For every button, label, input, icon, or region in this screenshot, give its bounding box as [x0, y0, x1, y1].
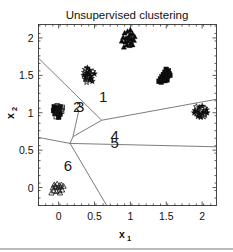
figure-container: Unsupervised clustering 00.511.5200.511.…	[0, 0, 233, 252]
x-axis-label-text: x	[119, 228, 125, 240]
x-tick-label: 1.5	[159, 210, 174, 222]
cluster-label-6: 6	[64, 157, 72, 174]
data-point	[167, 73, 172, 78]
cluster-label-5: 5	[110, 134, 118, 151]
data-point	[159, 80, 164, 85]
data-point	[53, 106, 58, 111]
x-tick-label: 2	[199, 210, 205, 222]
y-tick-label: 1	[28, 107, 34, 119]
chart-title: Unsupervised clustering	[66, 9, 189, 21]
cluster-label-1: 1	[99, 88, 107, 105]
x-tick-label: 1	[127, 210, 133, 222]
y-tick-label: 2	[28, 32, 34, 44]
x-tick-label: 0.5	[87, 210, 102, 222]
y-tick-label: 0.5	[19, 144, 34, 156]
y-axis-label-text: x	[4, 113, 16, 119]
y-tick-label: 0	[28, 182, 34, 194]
y-tick-label: 1.5	[19, 69, 34, 81]
data-point	[56, 115, 61, 120]
x-tick-label: 0	[56, 210, 62, 222]
plot-background	[0, 0, 233, 252]
clustering-scatter-plot: Unsupervised clustering 00.511.5200.511.…	[0, 0, 233, 252]
cluster-label-3: 3	[76, 98, 84, 115]
y-axis-label-subscript: 2	[10, 107, 19, 111]
data-point	[165, 77, 170, 82]
x-axis-label-subscript: 1	[127, 234, 131, 243]
